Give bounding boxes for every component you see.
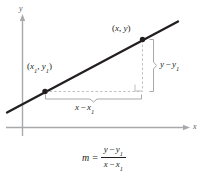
point-2-close-paren: ) [128, 23, 131, 33]
rise-bracket [150, 40, 157, 92]
rise-second-subscript: 1 [176, 65, 179, 72]
point-2-label: (x, y) [112, 24, 131, 33]
run-minus-sign: − [79, 102, 87, 112]
y-axis-label: y [19, 5, 23, 13]
run-bracket [46, 95, 142, 103]
right-angle-marker [135, 85, 142, 92]
slope-formula: m = y−y1 x−x1 [0, 144, 208, 171]
slope-symbol: m [82, 152, 89, 163]
point-marker-1 [42, 89, 47, 94]
slope-fraction: y−y1 x−x1 [101, 144, 126, 171]
point-1-close-paren: ) [49, 61, 52, 71]
rise-minus-sign: − [164, 59, 172, 69]
run-label: x−x1 [75, 103, 94, 114]
denominator-minus-sign: − [108, 159, 116, 169]
y-axis [20, 14, 25, 136]
denominator-second-subscript: 1 [120, 165, 123, 172]
fraction-numerator: y−y1 [101, 144, 126, 157]
point-1-label: (x1, y1) [27, 62, 52, 73]
point-1-y-subscript: 1 [46, 67, 49, 74]
fraction-denominator: x−x1 [101, 158, 126, 171]
numerator-minus-sign: − [108, 144, 116, 154]
x-axis-label: x [193, 123, 197, 131]
run-second-subscript: 1 [91, 108, 94, 115]
slope-diagram: y x (x1, y1) (x, y) y−y1 x−x1 m = y−y1 x… [0, 0, 208, 179]
point-marker-2 [140, 37, 145, 42]
equals-sign: = [92, 152, 98, 163]
numerator-second-subscript: 1 [120, 150, 123, 157]
rise-label: y−y1 [160, 60, 179, 71]
point-1-x-subscript: 1 [34, 67, 37, 74]
x-axis [6, 125, 190, 130]
